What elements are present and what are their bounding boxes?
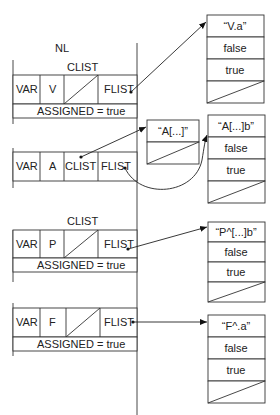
arrow-p-flist xyxy=(128,227,207,249)
cell-name: F xyxy=(49,316,56,328)
flist-true: true xyxy=(227,364,246,376)
cell-name: P xyxy=(49,238,56,250)
assigned-flag: ASSIGNED = true xyxy=(37,338,125,350)
cell-var: VAR xyxy=(16,316,38,328)
flist-name: “F^.a” xyxy=(222,320,251,332)
diagram-title: NL xyxy=(55,42,69,54)
flist-false: false xyxy=(223,42,246,54)
cell-clist: CLIST xyxy=(65,160,96,172)
flist-true: true xyxy=(226,64,245,76)
cell-name: A xyxy=(49,160,57,172)
nl-entry-a: VAR A CLIST FLIST xyxy=(13,152,137,181)
assigned-flag: ASSIGNED = true xyxy=(37,105,125,117)
assigned-flag: ASSIGNED = true xyxy=(37,259,125,271)
flist-box-a: “A[...]b” false true xyxy=(208,115,265,203)
cell-name: V xyxy=(49,83,57,95)
flist-true: true xyxy=(227,164,246,176)
cell-var: VAR xyxy=(16,160,38,172)
flist-false: false xyxy=(224,142,247,154)
cell-flist: FLIST xyxy=(104,316,134,328)
nl-entry-p: CLIST VAR P FLIST ASSIGNED = true xyxy=(13,215,137,272)
flist-name: “V.a” xyxy=(224,20,247,32)
cell-var: VAR xyxy=(16,238,38,250)
flist-box-v: “V.a” false true xyxy=(207,15,264,103)
flist-name: “A[...]b” xyxy=(218,120,254,132)
clist-label: “A[...]” xyxy=(158,125,188,137)
flist-false: false xyxy=(224,246,247,258)
clist-header: CLIST xyxy=(67,61,98,73)
flist-true: true xyxy=(227,266,246,278)
flist-false: false xyxy=(224,342,247,354)
flist-box-p: “P^[...]b” false true xyxy=(208,222,265,302)
clist-box-a: “A[...]” xyxy=(147,120,199,164)
clist-header: CLIST xyxy=(67,215,98,227)
flist-box-f: “F^.a” false true xyxy=(208,315,265,403)
nl-entry-f: VAR F FLIST ASSIGNED = true xyxy=(13,308,137,351)
cell-var: VAR xyxy=(16,83,38,95)
nl-entry-v: CLIST VAR V FLIST ASSIGNED = true xyxy=(13,61,137,118)
cell-flist: FLIST xyxy=(101,160,131,172)
arrow-v-flist xyxy=(131,22,206,92)
flist-name: “P^[...]b” xyxy=(215,226,257,238)
cell-flist: FLIST xyxy=(104,83,134,95)
symbol-table-diagram: NL CLIST VAR V FLIST ASSIGNED = true VAR… xyxy=(0,0,280,415)
